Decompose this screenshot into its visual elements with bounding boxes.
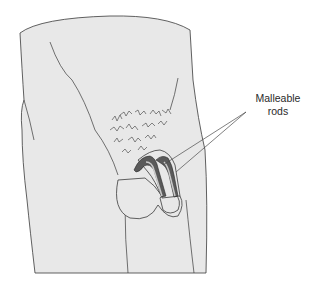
torso-outline (20, 16, 207, 273)
label-line-2: rods (248, 105, 308, 118)
malleable-rods-label: Malleable rods (248, 92, 308, 118)
anatomical-illustration (0, 0, 314, 284)
label-line-1: Malleable (248, 92, 308, 105)
